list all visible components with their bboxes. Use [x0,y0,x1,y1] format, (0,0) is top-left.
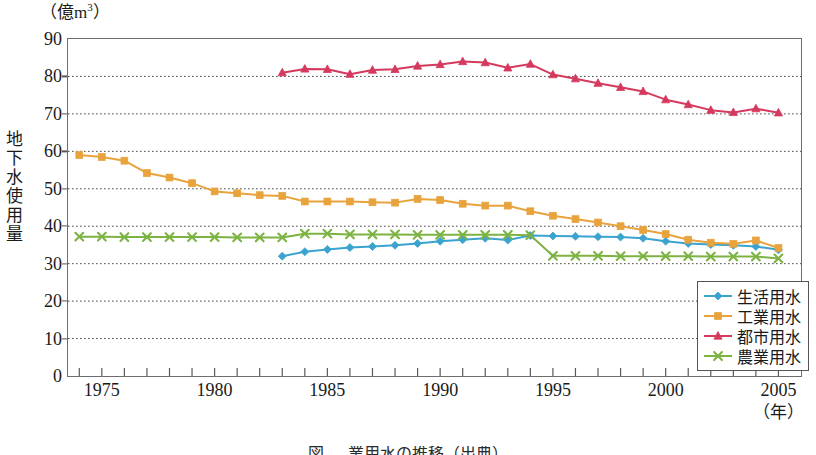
data-point-marker [256,192,263,199]
data-point-marker [414,195,421,202]
data-point-marker [662,237,670,245]
x-axis-tick-label: 2005 [760,381,796,399]
data-point-marker [301,248,309,256]
legend-item-1[interactable]: 工業用水 [703,306,801,326]
x-axis-unit-label: （年） [753,404,804,421]
data-point-marker [211,188,218,195]
data-point-marker [595,219,602,226]
legend-swatch-diamond-icon [703,288,733,304]
data-point-marker [369,199,376,206]
x-axis-tick-label: 1990 [422,381,458,399]
y-axis-tick-label: 30 [32,255,62,273]
y-axis-tick-label: 90 [32,30,62,48]
chart-figure: （億m3） 地下水使用量 0102030405060708090 1975198… [0,0,816,455]
data-point-marker [662,231,669,238]
data-point-marker [730,240,737,247]
series-line-2 [282,61,778,112]
legend-item-3[interactable]: 農業用水 [703,346,801,366]
legend-swatch-square-icon [703,308,733,324]
data-point-marker [278,252,286,260]
data-point-marker [121,157,128,164]
data-point-marker [617,233,625,241]
series-line-3 [79,234,778,259]
data-point-marker [482,202,489,209]
figure-caption: 図 ― 業用水の推移（出典） [0,446,816,455]
x-axis-tick-label: 1980 [197,381,233,399]
data-point-marker [189,180,196,187]
data-point-marker [346,244,354,252]
y-axis-title-char: 用 [2,206,26,225]
data-point-marker [391,241,399,249]
data-point-marker [301,198,308,205]
data-point-marker [527,208,534,215]
data-point-marker [98,154,105,161]
data-point-marker [166,174,173,181]
legend-item-0[interactable]: 生活用水 [703,286,801,306]
y-axis-tick-labels: 0102030405060708090 [28,38,62,377]
data-point-marker [347,198,354,205]
legend-label: 農業用水 [737,344,801,368]
data-point-marker [571,232,579,240]
data-point-marker [459,200,466,207]
data-point-marker [639,234,647,242]
data-point-marker [392,199,399,206]
legend-swatch-triangle-icon [703,328,733,344]
plot-area [67,38,802,377]
data-point-marker [144,170,151,177]
data-point-marker [775,245,782,252]
data-point-marker [714,292,722,300]
data-point-marker [752,237,759,244]
data-point-marker [76,152,83,159]
y-axis-tick-label: 20 [32,292,62,310]
y-axis-title-char: 量 [2,225,26,244]
legend-swatch-x-icon [703,348,733,364]
data-point-marker [752,104,760,112]
data-point-marker [324,198,331,205]
chart-legend: 生活用水工業用水都市用水農業用水 [697,281,809,371]
y-axis-tick-label: 80 [32,67,62,85]
data-point-marker [640,227,647,234]
data-point-marker [617,223,624,230]
y-axis-title-char: 使 [2,187,26,206]
data-point-marker [234,190,241,197]
data-point-marker [707,239,714,246]
chart-svg [68,39,801,376]
data-point-marker [368,242,376,250]
data-point-marker [685,236,692,243]
y-axis-title-char: 下 [2,149,26,168]
y-axis-tick-label: 0 [32,367,62,385]
data-point-marker [414,239,422,247]
data-point-marker [437,197,444,204]
x-axis-tick-label: 1985 [309,381,345,399]
y-axis-unit-caption: （億m3） [40,2,110,21]
y-axis-tick-label: 10 [32,330,62,348]
y-axis-title: 地下水使用量 [2,130,26,244]
y-axis-unit-close: ） [93,3,110,22]
x-axis-tick-label: 1975 [84,381,120,399]
data-point-marker [526,60,534,68]
y-axis-tick-label: 40 [32,217,62,235]
data-point-marker [549,232,557,240]
data-point-marker [572,216,579,223]
x-axis-tick-label: 1995 [535,381,571,399]
y-axis-unit-text: （億m [40,3,87,22]
data-point-marker [594,233,602,241]
legend-item-2[interactable]: 都市用水 [703,326,801,346]
x-axis-tick-label: 2000 [648,381,684,399]
y-axis-tick-label: 70 [32,105,62,123]
data-point-marker [279,192,286,199]
plot-inner [68,39,801,376]
y-axis-title-char: 地 [2,130,26,149]
data-point-marker [715,313,722,320]
y-axis-tick-label: 60 [32,142,62,160]
data-point-marker [504,202,511,209]
y-axis-tick-label: 50 [32,180,62,198]
y-axis-title-char: 水 [2,168,26,187]
x-axis-tick-labels: 1975198019851990199520002005 [67,381,802,405]
data-point-marker [550,212,557,219]
data-point-marker [323,245,331,253]
